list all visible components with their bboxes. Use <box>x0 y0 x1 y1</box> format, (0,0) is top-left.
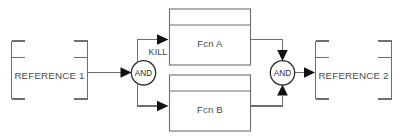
reference-2-block[interactable]: REFERENCE 2 <box>316 41 392 99</box>
and-gate-input[interactable]: AND <box>131 61 155 85</box>
edge-reference1-to-gate-in <box>88 67 132 78</box>
edge-gate-in-to-function-b <box>137 83 168 112</box>
wire-function-a-gate-out <box>251 40 283 51</box>
reference-1-label: REFERENCE 1 <box>14 70 84 81</box>
wire-gate-in-to-function-b <box>137 83 157 106</box>
and-gate-input-label: AND <box>135 69 153 78</box>
arrowhead-into-reference2 <box>304 67 315 78</box>
kill-label: KILL <box>149 47 168 57</box>
and-gate-output[interactable]: AND <box>270 61 294 85</box>
edge-gate-out-to-reference2 <box>295 67 315 78</box>
reference-2-label: REFERENCE 2 <box>318 70 388 81</box>
diagram-canvas: REFERENCE 1 AND KILL Fcn A <box>0 0 401 139</box>
wire-function-b-gate-out <box>251 96 283 107</box>
function-b-outline <box>170 75 251 131</box>
and-gate-output-label: AND <box>274 69 292 78</box>
function-a-outline <box>170 9 251 65</box>
edge-function-a-to-gate-out <box>251 40 288 62</box>
function-a-block[interactable]: Fcn A <box>170 9 251 65</box>
arrowhead-into-gate-out-top <box>277 50 288 61</box>
diagram-svg: REFERENCE 1 AND KILL Fcn A <box>0 0 401 139</box>
edge-gate-in-to-function-a: KILL <box>137 34 168 63</box>
arrowhead-into-gate-in <box>121 67 132 78</box>
function-b-label: Fcn B <box>197 104 223 115</box>
reference-1-block[interactable]: REFERENCE 1 <box>12 41 88 99</box>
arrowhead-into-function-a <box>157 34 169 45</box>
arrowhead-into-function-b <box>157 101 169 112</box>
function-a-label: Fcn A <box>197 38 223 49</box>
arrowhead-into-gate-out-bottom <box>277 85 288 96</box>
edge-function-b-to-gate-out <box>251 85 288 107</box>
function-b-block[interactable]: Fcn B <box>170 75 251 131</box>
